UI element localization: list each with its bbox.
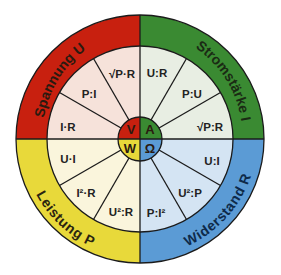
formula-power-3: U²:R [109,206,134,218]
formula-resistance-3: P:I² [147,207,166,219]
formula-wheel: V A Ω W I·R P:I √P·R U:R P:U √P:R U:I U²… [0,0,281,275]
unit-power: W [124,141,137,156]
formula-voltage-1: I·R [60,121,76,133]
formula-resistance-2: U²:P [178,187,202,199]
formula-current-2: P:U [182,88,202,100]
unit-resistance: Ω [145,141,155,156]
formula-power-2: I²·R [76,187,96,199]
formula-voltage-2: P:I [82,88,97,100]
unit-current: A [145,122,155,137]
formula-current-3: √P:R [197,121,224,133]
formula-power-1: U·I [60,153,75,165]
unit-voltage: V [127,122,136,137]
formula-resistance-1: U:I [204,155,219,167]
formula-current-1: U:R [147,67,168,79]
formula-voltage-3: √P·R [109,68,136,80]
